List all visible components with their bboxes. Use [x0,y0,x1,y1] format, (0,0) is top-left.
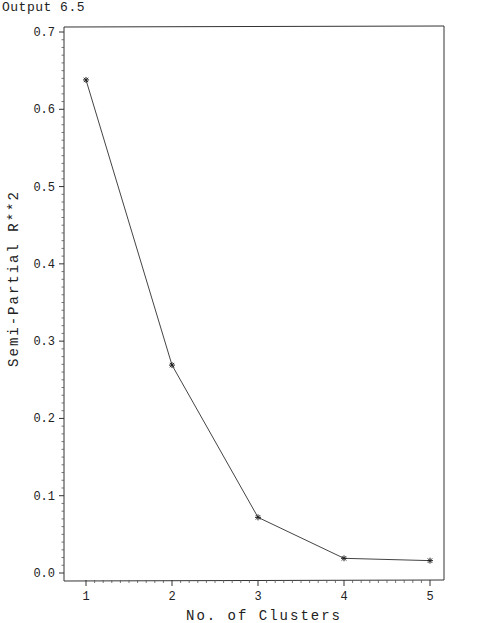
y-tick-label: 0.1 [33,490,55,504]
x-tick-label: 5 [426,590,433,604]
series-line [86,80,430,561]
x-tick-label: 2 [168,590,175,604]
y-tick-label: 0.5 [33,181,55,195]
y-tick-label: 0.0 [33,567,55,581]
x-tick-label: 4 [340,590,347,604]
y-axis-title: Semi-Partial R**2 [6,190,22,367]
y-tick-label: 0.6 [33,103,55,117]
asterisk-marker-icon [427,558,433,564]
y-tick-label: 0.4 [33,258,55,272]
asterisk-marker-icon [341,555,347,561]
scree-plot: 0.00.10.20.30.40.50.60.712345No. of Clus… [0,0,489,623]
y-tick-label: 0.3 [33,335,55,349]
asterisk-marker-icon [255,514,261,520]
plot-frame [64,26,444,581]
x-tick-label: 3 [254,590,261,604]
x-axis-title: No. of Clusters [186,608,342,623]
y-tick-label: 0.7 [33,26,55,40]
asterisk-marker-icon [83,77,89,83]
y-tick-label: 0.2 [33,412,55,426]
asterisk-marker-icon [169,362,175,368]
x-tick-label: 1 [82,590,89,604]
